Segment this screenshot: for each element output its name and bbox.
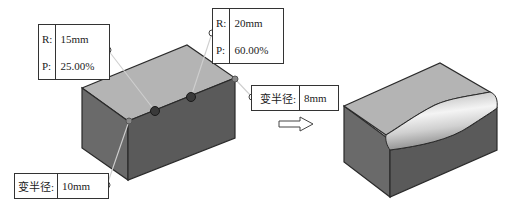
position-label: P:	[42, 60, 52, 72]
variable-radius-value[interactable]: 8mm	[304, 92, 327, 104]
position-value[interactable]: 25.00%	[60, 60, 94, 72]
callout-end-right: 变半径: 8mm	[251, 85, 339, 111]
control-point-1[interactable]	[151, 107, 160, 116]
radius-value[interactable]: 15mm	[60, 33, 94, 45]
radius-value[interactable]: 20mm	[234, 17, 268, 29]
variable-radius-label: 变半径:	[260, 90, 296, 106]
variable-radius-label: 变半径:	[18, 178, 54, 194]
control-point-2[interactable]	[187, 93, 196, 102]
hollow-right-arrow-icon	[279, 117, 313, 131]
radius-label: R:	[42, 33, 52, 45]
radius-label: R:	[216, 17, 226, 29]
position-value[interactable]: 60.00%	[234, 44, 268, 56]
edge-end-left-marker[interactable]	[126, 118, 132, 124]
callout-end-left: 变半径: 10mm	[14, 173, 109, 199]
box-after	[344, 63, 497, 197]
edge-end-right-marker[interactable]	[232, 76, 238, 82]
position-label: P:	[216, 44, 226, 56]
variable-radius-value[interactable]: 10mm	[62, 180, 90, 192]
callout-point-2: R: P: 20mm 60.00%	[212, 8, 284, 64]
callout-point-1: R: P: 15mm 25.00%	[38, 24, 110, 80]
